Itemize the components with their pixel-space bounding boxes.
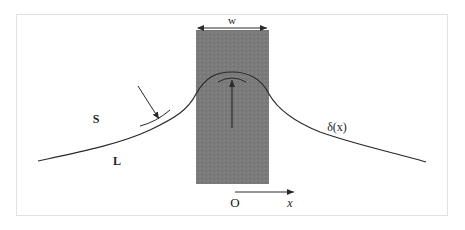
width-label: w <box>228 14 236 26</box>
x-axis-label: x <box>286 196 293 210</box>
diagonal-arrow <box>138 86 159 119</box>
profile-label: δ(x) <box>327 120 347 134</box>
solid-phase-label: S <box>93 112 100 126</box>
origin-label: O <box>230 195 239 210</box>
liquid-phase-label: L <box>113 154 121 168</box>
diagram-canvas: w S L δ(x) O x <box>0 0 465 230</box>
